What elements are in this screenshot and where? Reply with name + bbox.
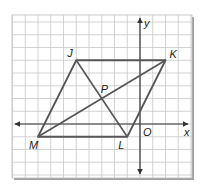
point-label-m: M	[29, 139, 39, 151]
x-axis-label: x	[183, 126, 190, 138]
point-label-j: J	[66, 47, 73, 59]
parallelogram-diagram: JKLMPOxy	[0, 0, 200, 188]
point-label-k: K	[170, 48, 178, 60]
origin-label: O	[143, 126, 152, 138]
point-label-p: P	[101, 83, 109, 95]
point-label-l: L	[118, 139, 124, 151]
coordinate-grid: JKLMPOxy	[0, 0, 200, 188]
